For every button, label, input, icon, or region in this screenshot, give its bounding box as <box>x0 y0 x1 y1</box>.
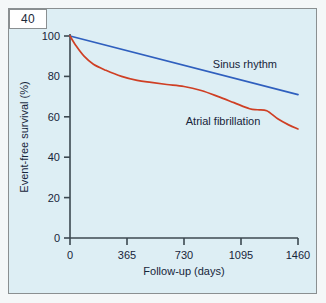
x-axis-tick-labels: 036573010951460 <box>67 249 310 261</box>
x-axis-ticks <box>70 238 298 245</box>
series-label-sinus-rhythm: Sinus rhythm <box>213 58 277 70</box>
y-tick-label: 60 <box>48 111 60 123</box>
x-axis-title: Follow-up (days) <box>143 265 224 277</box>
chart-series <box>70 36 298 129</box>
y-tick-label: 0 <box>54 232 60 244</box>
figure-number-badge: 40 <box>9 9 47 29</box>
x-tick-label: 1460 <box>286 249 310 261</box>
x-tick-label: 0 <box>67 249 73 261</box>
x-tick-label: 1095 <box>229 249 253 261</box>
y-tick-label: 40 <box>48 151 60 163</box>
y-tick-label: 80 <box>48 70 60 82</box>
series-label-atrial-fibrillation: Atrial fibrillation <box>186 115 261 127</box>
y-tick-label: 100 <box>42 30 60 42</box>
y-axis-title: Event-free survival (%) <box>18 81 30 192</box>
x-tick-label: 365 <box>118 249 136 261</box>
y-axis-ticks <box>64 36 70 238</box>
figure-root: 40 020406080100 036573010951460 Event-fr… <box>0 0 326 303</box>
y-axis-tick-labels: 020406080100 <box>42 30 60 244</box>
x-tick-label: 730 <box>175 249 193 261</box>
y-tick-label: 20 <box>48 192 60 204</box>
figure-number: 40 <box>21 12 35 26</box>
survival-chart: 020406080100 036573010951460 Event-free … <box>0 0 326 303</box>
series-line <box>70 36 298 129</box>
